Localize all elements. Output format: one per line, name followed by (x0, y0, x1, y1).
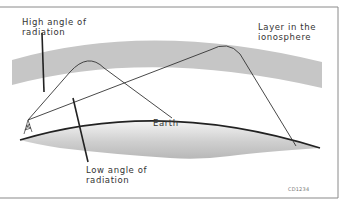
antenna-tower-icon (24, 120, 32, 134)
high-angle-pointer (42, 33, 44, 92)
figure-code: CD1234 (288, 186, 309, 192)
ionosphere-radiation-diagram: High angle of radiation Layer in the ion… (0, 0, 346, 209)
low-angle-label: Low angle of radiation (86, 165, 147, 185)
ionosphere-layer (12, 40, 322, 88)
high-angle-label: High angle of radiation (22, 17, 87, 37)
earth-label: Earth (153, 118, 179, 128)
ionosphere-layer-label: Layer in the ionosphere (258, 22, 316, 42)
